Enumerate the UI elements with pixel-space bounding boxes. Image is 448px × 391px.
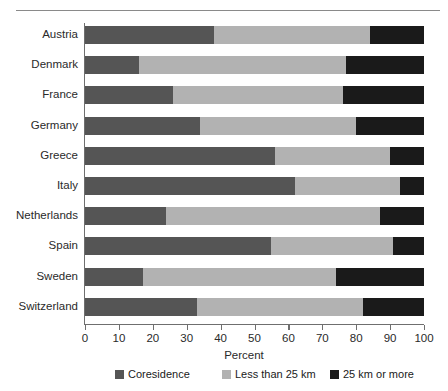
legend-label: Coresidence	[128, 368, 190, 380]
x-tick-mark	[153, 325, 154, 330]
x-tick-label: 40	[214, 332, 227, 344]
bar-segment-coresidence	[85, 117, 200, 135]
bar-segment-coresidence	[85, 147, 275, 165]
bar-row	[85, 147, 424, 165]
x-tick-mark	[187, 325, 188, 330]
x-tick-mark	[221, 325, 222, 330]
bar-row	[85, 26, 424, 44]
bar-row	[85, 237, 424, 255]
bar-segment-less-than-25-km	[271, 237, 393, 255]
bar-segment-less-than-25-km	[214, 26, 370, 44]
bar-segment-25-km-or-more	[393, 237, 424, 255]
x-tick-label: 90	[384, 332, 397, 344]
bar-row	[85, 56, 424, 74]
bar-segment-less-than-25-km	[275, 147, 390, 165]
legend-item[interactable]: Less than 25 km	[222, 368, 316, 380]
bar-segment-25-km-or-more	[390, 147, 424, 165]
chart-legend: CoresidenceLess than 25 km25 km or more	[0, 368, 448, 384]
x-tick-label: 10	[112, 332, 125, 344]
bar-row	[85, 298, 424, 316]
x-tick-mark	[356, 325, 357, 330]
legend-label: Less than 25 km	[235, 368, 316, 380]
category-label-austria: Austria	[0, 28, 78, 40]
legend-item[interactable]: 25 km or more	[330, 368, 414, 380]
bar-segment-coresidence	[85, 237, 271, 255]
bar-segment-coresidence	[85, 268, 143, 286]
x-axis-title: Percent	[0, 349, 448, 361]
legend-item[interactable]: Coresidence	[115, 368, 190, 380]
category-label-france: France	[0, 88, 78, 100]
category-label-sweden: Sweden	[0, 270, 78, 282]
x-tick-mark	[119, 325, 120, 330]
category-label-germany: Germany	[0, 119, 78, 131]
legend-swatch-icon	[330, 370, 339, 379]
x-tick-mark	[288, 325, 289, 330]
bar-segment-less-than-25-km	[173, 86, 343, 104]
category-label-netherlands: Netherlands	[0, 209, 78, 221]
x-tick-mark	[424, 325, 425, 330]
legend-swatch-icon	[222, 370, 231, 379]
plot-area	[85, 26, 424, 323]
bar-segment-less-than-25-km	[166, 207, 380, 225]
bar-segment-25-km-or-more	[400, 177, 424, 195]
bar-segment-less-than-25-km	[143, 268, 336, 286]
bar-segment-coresidence	[85, 56, 139, 74]
bar-segment-less-than-25-km	[200, 117, 356, 135]
bar-segment-less-than-25-km	[197, 298, 363, 316]
stacked-bar-rows	[85, 26, 424, 323]
x-tick-mark	[255, 325, 256, 330]
bar-row	[85, 117, 424, 135]
bar-segment-coresidence	[85, 86, 173, 104]
x-tick-mark	[85, 325, 86, 330]
x-tick-label: 70	[316, 332, 329, 344]
bar-segment-less-than-25-km	[139, 56, 346, 74]
x-tick-label: 100	[414, 332, 433, 344]
x-tick-mark	[390, 325, 391, 330]
category-label-switzerland: Switzerland	[0, 300, 78, 312]
bar-row	[85, 86, 424, 104]
x-tick-label: 30	[180, 332, 193, 344]
category-label-denmark: Denmark	[0, 58, 78, 70]
x-tick-label: 80	[350, 332, 363, 344]
legend-label: 25 km or more	[343, 368, 414, 380]
bar-row	[85, 268, 424, 286]
bar-segment-25-km-or-more	[346, 56, 424, 74]
category-label-spain: Spain	[0, 239, 78, 251]
bar-segment-25-km-or-more	[370, 26, 424, 44]
x-tick-label: 60	[282, 332, 295, 344]
x-tick-label: 0	[82, 332, 88, 344]
bar-segment-25-km-or-more	[343, 86, 424, 104]
bar-segment-coresidence	[85, 298, 197, 316]
x-tick-label: 20	[146, 332, 159, 344]
category-label-italy: Italy	[0, 179, 78, 191]
x-tick-label: 50	[248, 332, 261, 344]
bar-segment-25-km-or-more	[356, 117, 424, 135]
bar-segment-25-km-or-more	[363, 298, 424, 316]
bar-segment-coresidence	[85, 177, 295, 195]
x-tick-mark	[322, 325, 323, 330]
bar-segment-less-than-25-km	[295, 177, 400, 195]
bar-row	[85, 207, 424, 225]
bar-segment-coresidence	[85, 207, 166, 225]
chart-figure: AustriaDenmarkFranceGermanyGreeceItalyNe…	[0, 0, 448, 391]
bar-segment-coresidence	[85, 26, 214, 44]
legend-swatch-icon	[115, 370, 124, 379]
top-divider-rule	[16, 10, 440, 11]
x-axis-title-text: Percent	[224, 349, 264, 361]
category-label-greece: Greece	[0, 149, 78, 161]
bar-segment-25-km-or-more	[380, 207, 424, 225]
bar-segment-25-km-or-more	[336, 268, 424, 286]
bar-row	[85, 177, 424, 195]
